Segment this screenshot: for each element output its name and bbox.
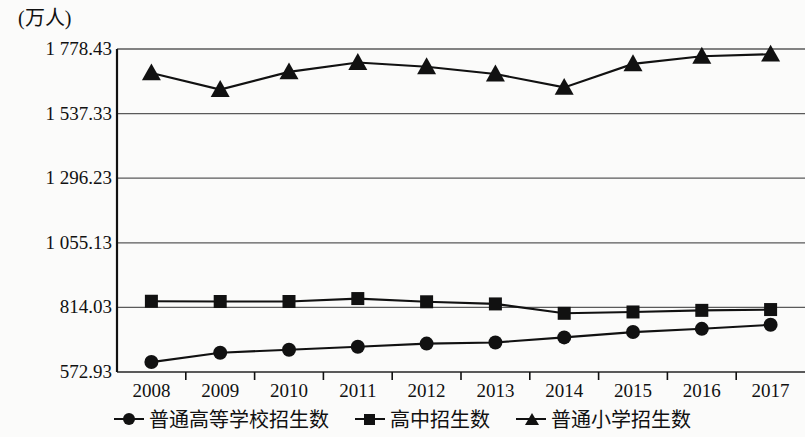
x-axis-tick-label: 2015 <box>598 381 668 400</box>
x-axis-tick-label: 2014 <box>529 381 599 400</box>
data-point-square <box>627 305 640 318</box>
data-point-square <box>764 303 777 316</box>
legend-item[interactable]: 高中招生数 <box>355 404 490 433</box>
x-axis-tick-label: 2011 <box>323 381 393 400</box>
data-point-triangle <box>761 45 780 62</box>
x-axis-tick-label: 2012 <box>392 381 462 400</box>
data-series-layer <box>142 45 780 369</box>
line-chart: (万人) 1 778.431 537.331 296.231 055.13814… <box>0 0 805 437</box>
x-axis-tick-label: 2008 <box>116 381 186 400</box>
legend-symbol <box>123 413 135 425</box>
data-point-circle <box>764 318 778 332</box>
plot-area <box>0 0 805 400</box>
legend-symbol <box>364 414 375 425</box>
data-point-square <box>489 297 502 310</box>
data-point-circle <box>626 325 640 339</box>
square-marker-icon <box>355 412 385 426</box>
legend-label: 普通高等学校招生数 <box>149 404 329 433</box>
data-point-circle <box>144 355 158 369</box>
legend-item[interactable]: 普通高等学校招生数 <box>114 404 329 433</box>
data-point-circle <box>557 330 571 344</box>
data-point-square <box>214 295 227 308</box>
x-axis-tick-label: 2016 <box>667 381 737 400</box>
data-point-circle <box>351 340 365 354</box>
x-axis-tick-label: 2009 <box>185 381 255 400</box>
data-point-square <box>145 295 158 308</box>
data-point-square <box>283 295 296 308</box>
legend-symbol <box>525 413 539 425</box>
data-point-triangle <box>142 63 161 80</box>
chart-legend: 普通高等学校招生数高中招生数普通小学招生数 <box>0 400 805 437</box>
series-line-triangle <box>151 54 770 89</box>
legend-item[interactable]: 普通小学招生数 <box>516 404 691 433</box>
triangle-marker-icon <box>516 412 546 426</box>
x-axis-tick-label: 2017 <box>736 381 805 400</box>
legend-label: 高中招生数 <box>390 404 490 433</box>
data-point-square <box>695 304 708 317</box>
legend-label: 普通小学招生数 <box>551 404 691 433</box>
x-axis-tick-label: 2013 <box>460 381 530 400</box>
data-point-square <box>420 295 433 308</box>
x-axis-ticks <box>186 372 736 380</box>
data-point-circle <box>488 336 502 350</box>
data-point-square <box>558 307 571 320</box>
data-point-square <box>351 292 364 305</box>
circle-marker-icon <box>114 412 144 426</box>
series-line-circle <box>151 325 770 362</box>
data-point-circle <box>213 346 227 360</box>
x-axis-tick-label: 2010 <box>254 381 324 400</box>
data-point-circle <box>282 343 296 357</box>
series-line-square <box>151 299 770 314</box>
data-point-triangle <box>348 53 367 70</box>
data-point-circle <box>420 337 434 351</box>
data-point-circle <box>695 322 709 336</box>
